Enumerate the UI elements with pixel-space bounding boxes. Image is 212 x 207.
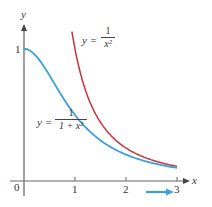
x-axis-label: x (192, 175, 197, 186)
y-tick-label-1: 1 (15, 44, 21, 55)
x-tick-label-3: 3 (174, 184, 180, 195)
blue-numerator: 1 (55, 108, 87, 120)
series-reciprocal-square (72, 32, 177, 167)
x-axis-arrow-icon (183, 178, 190, 184)
series-reciprocal-one-plus-square (24, 49, 177, 168)
direction-arrow-icon (166, 189, 174, 196)
blue-denominator: 1 + x² (55, 120, 87, 131)
y-axis-label: y (21, 9, 26, 20)
red-equation-lhs: y = (82, 35, 97, 46)
x-tick-label-1: 1 (72, 184, 78, 195)
blue-equation-lhs: y = (37, 117, 52, 128)
red-numerator: 1 (101, 26, 115, 38)
y-axis-arrow-icon (21, 24, 27, 31)
origin-label: 0 (14, 182, 20, 193)
red-equation-fraction: 1 x² (101, 26, 115, 49)
red-denominator: x² (101, 38, 115, 49)
x-tick-label-2: 2 (123, 184, 129, 195)
chart: y x 0 1 2 3 1 y = 1 x² y = 1 1 + x² (0, 0, 212, 207)
blue-equation-fraction: 1 1 + x² (55, 108, 87, 131)
